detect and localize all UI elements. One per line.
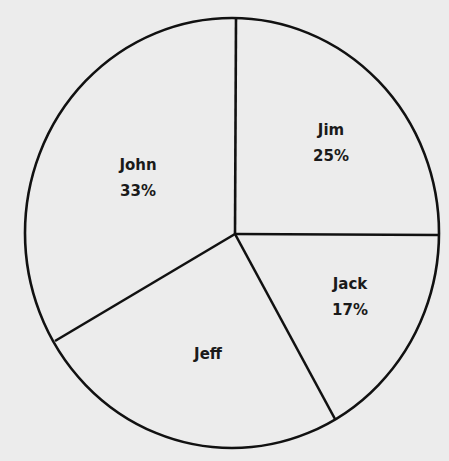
pie-outline bbox=[25, 18, 439, 448]
divider-jack-jeff bbox=[235, 234, 335, 419]
divider-jim-jack bbox=[235, 234, 439, 235]
divider-jim-john bbox=[235, 18, 236, 234]
slice-label-jeff: Jeff bbox=[194, 341, 222, 367]
slice-name-john: John bbox=[119, 152, 156, 178]
slice-name-jack: Jack bbox=[332, 271, 368, 297]
slice-label-jim: Jim 25% bbox=[313, 117, 349, 169]
slice-percent-jack: 17% bbox=[332, 297, 368, 323]
divider-jeff-john bbox=[55, 234, 235, 341]
slice-percent-jim: 25% bbox=[313, 143, 349, 169]
slice-label-john: John 33% bbox=[119, 152, 156, 204]
slice-name-jeff: Jeff bbox=[194, 341, 222, 367]
slice-label-jack: Jack 17% bbox=[332, 271, 368, 323]
slice-percent-john: 33% bbox=[119, 178, 156, 204]
slice-name-jim: Jim bbox=[313, 117, 349, 143]
pie-chart bbox=[0, 0, 449, 461]
